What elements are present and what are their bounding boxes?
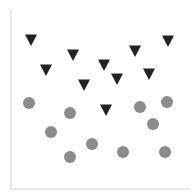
circle-marker	[45, 126, 57, 138]
circle-marker	[161, 96, 173, 108]
triangle-down-marker	[25, 35, 37, 46]
triangle-down-marker	[40, 65, 52, 76]
circle-marker	[159, 146, 171, 158]
triangle-down-marker	[67, 50, 79, 61]
circle-marker	[23, 97, 35, 109]
triangle-down-marker	[111, 74, 123, 85]
triangle-down-marker	[162, 36, 174, 47]
circle-marker	[64, 151, 76, 163]
circle-marker	[64, 107, 76, 119]
circle-marker	[117, 146, 129, 158]
scatter-chart	[0, 0, 196, 195]
triangle-down-marker	[78, 80, 90, 91]
circle-marker	[134, 101, 146, 113]
triangle-down-marker	[129, 46, 141, 57]
circle-marker	[147, 118, 159, 130]
triangle-down-marker	[100, 105, 112, 116]
markers-group	[23, 35, 174, 163]
circle-marker	[86, 138, 98, 150]
triangle-down-marker	[98, 60, 110, 71]
triangle-down-marker	[143, 69, 155, 80]
